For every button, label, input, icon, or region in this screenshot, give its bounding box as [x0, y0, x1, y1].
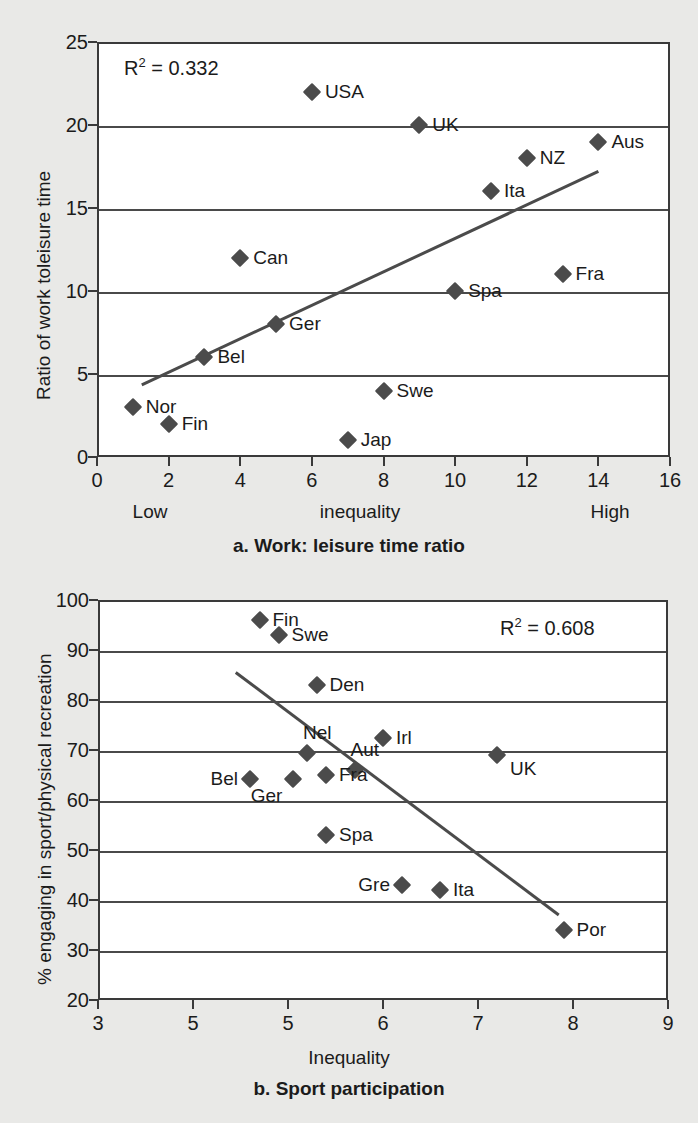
- y-tick-mark: [89, 699, 98, 701]
- x-tick-mark: [572, 1000, 574, 1009]
- gridline-y: [100, 851, 666, 853]
- chart-sport-participation: 20304050607080901003556789FinSweDenIrlNe…: [0, 560, 698, 1123]
- x-tick-mark: [96, 457, 98, 466]
- x-tick-mark: [477, 1000, 479, 1009]
- x-tick-mark: [311, 457, 313, 466]
- y-tick-label: 20: [29, 990, 89, 1010]
- plot-area-b: [98, 600, 668, 1000]
- y-tick-label: 20: [28, 115, 88, 135]
- y-tick-mark: [88, 207, 97, 209]
- data-point-label: Por: [577, 920, 607, 940]
- x-axis-low-label: Low: [90, 502, 210, 522]
- x-tick-label: 7: [438, 1013, 518, 1033]
- gridline-y: [100, 951, 666, 953]
- x-tick-label: 8: [344, 470, 424, 490]
- x-axis-high-label: High: [550, 502, 670, 522]
- y-tick-label: 25: [28, 32, 88, 52]
- x-tick-mark: [168, 457, 170, 466]
- data-point-label: Ita: [453, 880, 474, 900]
- data-point-label: Fra: [576, 264, 605, 284]
- data-point-label: UK: [510, 759, 536, 779]
- y-tick-mark: [88, 290, 97, 292]
- data-point-label: Spa: [468, 281, 502, 301]
- data-point-label: Ger: [289, 314, 321, 334]
- data-point-label: NZ: [540, 148, 565, 168]
- gridline-y: [99, 375, 668, 377]
- figure-page: 05101520250246810121416USAUKAusNZItaCanF…: [0, 0, 698, 1123]
- data-point-label: Spa: [339, 825, 373, 845]
- data-point-label: Bel: [211, 769, 238, 789]
- y-tick-mark: [89, 749, 98, 751]
- x-axis-title-a: inequality: [300, 502, 420, 522]
- data-point-label: Swe: [397, 381, 434, 401]
- data-point-label: Nor: [146, 397, 177, 417]
- x-tick-label: 0: [57, 470, 137, 490]
- chart-caption-b: b. Sport participation: [0, 1078, 698, 1100]
- gridline-y: [99, 126, 668, 128]
- data-point-label: Aus: [611, 132, 644, 152]
- x-tick-mark: [667, 1000, 669, 1009]
- x-tick-label: 6: [272, 470, 352, 490]
- x-tick-label: 12: [487, 470, 567, 490]
- x-tick-mark: [669, 457, 671, 466]
- gridline-y: [99, 292, 668, 294]
- y-tick-label: 100: [29, 590, 89, 610]
- data-point-label: Bel: [217, 347, 244, 367]
- x-tick-label: 3: [58, 1013, 138, 1033]
- gridline-y: [100, 651, 666, 653]
- data-point-label: Den: [330, 675, 365, 695]
- y-tick-mark: [89, 649, 98, 651]
- y-tick-mark: [89, 849, 98, 851]
- gridline-y: [100, 701, 666, 703]
- y-tick-mark: [89, 949, 98, 951]
- x-tick-label: 5: [248, 1013, 328, 1033]
- x-tick-label: 16: [630, 470, 698, 490]
- data-point-label: Fra: [339, 765, 368, 785]
- y-tick-mark: [88, 124, 97, 126]
- x-tick-mark: [97, 1000, 99, 1009]
- gridline-y: [99, 209, 668, 211]
- x-tick-mark: [526, 457, 528, 466]
- x-tick-mark: [597, 457, 599, 466]
- x-tick-mark: [239, 457, 241, 466]
- x-tick-mark: [454, 457, 456, 466]
- x-tick-label: 2: [129, 470, 209, 490]
- y-axis-title-b: % engaging in sport/physical recreation: [35, 653, 55, 985]
- x-axis-title-b: Inequality: [0, 1048, 698, 1068]
- x-tick-label: 14: [558, 470, 638, 490]
- x-tick-mark: [287, 1000, 289, 1009]
- data-point-label: Ita: [504, 181, 525, 201]
- r2-annotation-a: R2 = 0.332: [124, 52, 219, 79]
- gridline-y: [100, 901, 666, 903]
- data-point-label: Jap: [361, 430, 392, 450]
- y-tick-mark: [89, 799, 98, 801]
- y-tick-mark: [88, 41, 97, 43]
- data-point-label: UK: [432, 115, 458, 135]
- x-tick-label: 6: [343, 1013, 423, 1033]
- chart-caption-a: a. Work: leisure time ratio: [0, 535, 698, 557]
- data-point-label: Can: [253, 248, 288, 268]
- data-point-label: Ger: [251, 786, 283, 806]
- data-point-label: Irl: [396, 728, 412, 748]
- data-point-label: Aut: [351, 740, 380, 760]
- y-tick-mark: [89, 899, 98, 901]
- x-tick-label: 4: [200, 470, 280, 490]
- x-tick-mark: [383, 457, 385, 466]
- x-tick-label: 10: [415, 470, 495, 490]
- gridline-y: [100, 801, 666, 803]
- data-point-label: Swe: [292, 625, 329, 645]
- chart-work-leisure-ratio: 05101520250246810121416USAUKAusNZItaCanF…: [0, 0, 698, 560]
- data-point-label: USA: [325, 82, 364, 102]
- data-point-label: Gre: [358, 875, 390, 895]
- y-axis-title-a: Ratio of work toleisure time: [34, 171, 54, 400]
- x-tick-label: 8: [533, 1013, 613, 1033]
- gridline-y: [100, 751, 666, 753]
- x-tick-mark: [382, 1000, 384, 1009]
- x-tick-mark: [192, 1000, 194, 1009]
- x-tick-label: 5: [153, 1013, 233, 1033]
- y-tick-label: 0: [28, 447, 88, 467]
- data-point-label: Fin: [182, 414, 208, 434]
- y-tick-mark: [89, 599, 98, 601]
- data-point-label: Nel: [303, 723, 332, 743]
- r2-annotation-b: R2 = 0.608: [500, 612, 595, 639]
